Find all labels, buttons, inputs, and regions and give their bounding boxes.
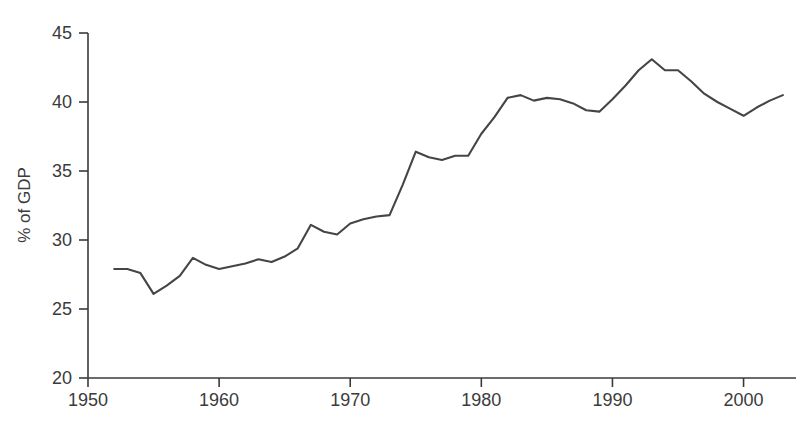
y-tick-label-40: 40	[52, 92, 72, 112]
x-tick-label-2000: 2000	[724, 390, 764, 410]
x-tick-label-1990: 1990	[592, 390, 632, 410]
x-tick-label-1950: 1950	[68, 390, 108, 410]
x-tick-label-1960: 1960	[199, 390, 239, 410]
y-tick-label-45: 45	[52, 23, 72, 43]
y-tick-label-35: 35	[52, 161, 72, 181]
y-tick-label-25: 25	[52, 299, 72, 319]
y-axis-title: % of GDP	[15, 167, 34, 243]
line-chart: 202530354045 195019601970198019902000 % …	[0, 0, 804, 435]
chart-background	[0, 0, 804, 435]
x-tick-label-1980: 1980	[461, 390, 501, 410]
x-tick-label-1970: 1970	[330, 390, 370, 410]
y-tick-label-20: 20	[52, 368, 72, 388]
y-tick-label-30: 30	[52, 230, 72, 250]
chart-container: 202530354045 195019601970198019902000 % …	[0, 0, 804, 435]
